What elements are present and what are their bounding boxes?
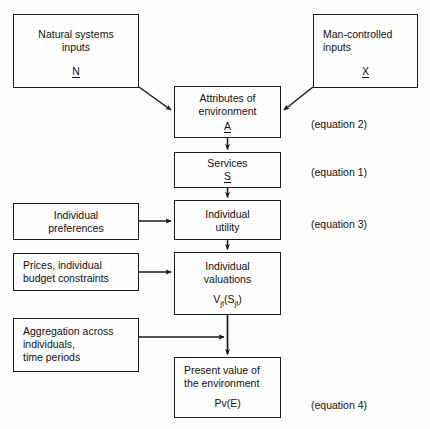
man-inputs-symbol: X bbox=[314, 65, 417, 78]
box-individual-preferences[interactable]: Individual preferences bbox=[13, 203, 139, 240]
present-value-label: Present value of the environment bbox=[175, 364, 280, 390]
arrow-natural-to-attributes bbox=[139, 87, 171, 110]
natural-inputs-symbol: N bbox=[14, 65, 138, 78]
individual-preferences-label: Individual preferences bbox=[14, 209, 138, 235]
attributes-label: Attributes of environment bbox=[175, 92, 280, 118]
box-individual-valuations[interactable]: Individual valuations Vjt(Sjt) bbox=[174, 252, 281, 315]
attributes-symbol: A bbox=[175, 120, 280, 133]
prices-constraints-label: Prices, individual budget constraints bbox=[14, 259, 138, 285]
equation-label-4: (equation 4) bbox=[311, 399, 367, 411]
present-value-symbol: Pv(E) bbox=[175, 397, 280, 410]
natural-inputs-label: Natural systems inputs bbox=[14, 28, 138, 54]
arrow-man-to-attributes bbox=[284, 87, 313, 110]
aggregation-label: Aggregation across individuals, time per… bbox=[14, 325, 138, 364]
box-natural-systems-inputs[interactable]: Natural systems inputs N bbox=[13, 14, 139, 88]
services-label: Services bbox=[175, 157, 280, 170]
box-present-value[interactable]: Present value of the environment Pv(E) bbox=[174, 357, 281, 418]
equation-label-3: (equation 3) bbox=[311, 218, 367, 230]
box-individual-utility[interactable]: Individual utility bbox=[174, 200, 281, 240]
services-symbol: S bbox=[175, 170, 280, 183]
individual-valuations-label: Individual valuations bbox=[175, 260, 280, 286]
man-inputs-label: Man-controlled inputs bbox=[314, 28, 417, 54]
individual-valuations-formula: Vjt(Sjt) bbox=[175, 293, 280, 310]
box-man-controlled-inputs[interactable]: Man-controlled inputs X bbox=[313, 14, 418, 88]
box-services[interactable]: Services S bbox=[174, 152, 281, 188]
diagram-canvas: Natural systems inputs N Man-controlled … bbox=[0, 0, 430, 429]
box-prices-budget-constraints[interactable]: Prices, individual budget constraints bbox=[13, 253, 139, 291]
box-aggregation[interactable]: Aggregation across individuals, time per… bbox=[13, 318, 139, 372]
equation-label-2: (equation 2) bbox=[311, 118, 367, 130]
box-attributes-of-environment[interactable]: Attributes of environment A bbox=[174, 86, 281, 138]
individual-utility-label: Individual utility bbox=[175, 208, 280, 234]
equation-label-1: (equation 1) bbox=[311, 166, 367, 178]
